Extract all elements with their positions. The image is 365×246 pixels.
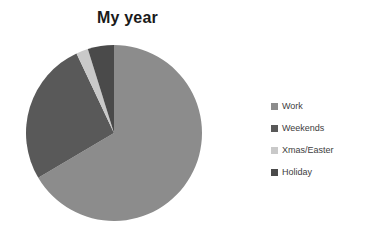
chart-legend: Work Weekends Xmas/Easter Holiday [271, 95, 363, 183]
pie-slice-group [26, 45, 202, 221]
legend-item-work[interactable]: Work [271, 95, 363, 117]
legend-swatch-weekends [271, 125, 278, 132]
legend-swatch-holiday [271, 169, 278, 176]
chart-canvas: My year Work Weekends Xmas/Easter Holida… [0, 0, 365, 246]
legend-item-weekends[interactable]: Weekends [271, 117, 363, 139]
legend-item-holiday[interactable]: Holiday [271, 161, 363, 183]
legend-label-xmas-easter: Xmas/Easter [282, 145, 334, 156]
pie-chart-plot-area [24, 43, 204, 223]
legend-swatch-work [271, 103, 278, 110]
legend-label-holiday: Holiday [282, 167, 312, 178]
pie-chart-svg [24, 43, 204, 223]
legend-label-work: Work [282, 101, 303, 112]
chart-title: My year [0, 8, 255, 28]
legend-swatch-xmas-easter [271, 147, 278, 154]
legend-item-xmas-easter[interactable]: Xmas/Easter [271, 139, 363, 161]
legend-label-weekends: Weekends [282, 123, 324, 134]
